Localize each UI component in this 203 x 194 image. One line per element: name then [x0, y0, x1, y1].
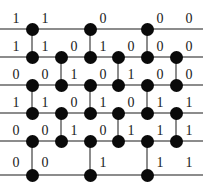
bit-label: 1 — [97, 156, 109, 170]
bit-label: 1 — [10, 12, 22, 26]
bit-label: 1 — [154, 156, 166, 170]
lattice-node — [112, 107, 125, 120]
lattice-node — [55, 107, 68, 120]
bit-label: 0 — [10, 124, 22, 138]
bit-label: 0 — [125, 96, 137, 110]
bit-label: 0 — [10, 156, 22, 170]
lattice-node — [112, 51, 125, 64]
lattice-node — [141, 79, 154, 92]
lattice-node — [170, 107, 183, 120]
bit-label: 1 — [125, 124, 137, 138]
bit-label: 0 — [39, 124, 51, 138]
bit-label: 0 — [97, 12, 109, 26]
bit-label: 1 — [183, 124, 195, 138]
lattice-node — [55, 79, 68, 92]
bit-label: 1 — [125, 68, 137, 82]
bit-label: 1 — [97, 40, 109, 54]
lattice-node — [112, 135, 125, 148]
bit-label: 0 — [10, 68, 22, 82]
bit-label: 0 — [183, 40, 195, 54]
lattice-node — [26, 169, 39, 182]
lattice-node — [141, 107, 154, 120]
bit-label: 1 — [154, 96, 166, 110]
bit-label: 0 — [68, 40, 80, 54]
bit-label: 1 — [68, 68, 80, 82]
bit-label: 1 — [10, 40, 22, 54]
bit-label: 1 — [183, 96, 195, 110]
bit-label: 0 — [183, 68, 195, 82]
bit-label: 1 — [39, 12, 51, 26]
lattice-node — [26, 79, 39, 92]
lattice-node — [84, 23, 97, 36]
lattice-node — [141, 23, 154, 36]
bit-label: 0 — [125, 40, 137, 54]
lattice-node — [26, 135, 39, 148]
lattice-node — [55, 51, 68, 64]
bit-label: 0 — [154, 68, 166, 82]
bit-label: 0 — [183, 12, 195, 26]
lattice-node — [112, 79, 125, 92]
lattice-node — [170, 135, 183, 148]
lattice-node — [26, 23, 39, 36]
lattice-node — [84, 107, 97, 120]
lattice-node — [84, 79, 97, 92]
lattice-node — [26, 107, 39, 120]
lattice-node — [170, 79, 183, 92]
bit-label: 1 — [68, 124, 80, 138]
bit-label: 0 — [39, 68, 51, 82]
bit-label: 1 — [183, 156, 195, 170]
bit-label: 0 — [97, 124, 109, 138]
bit-label: 1 — [154, 124, 166, 138]
bit-label: 1 — [10, 96, 22, 110]
lattice-node — [141, 135, 154, 148]
bit-label: 0 — [97, 68, 109, 82]
lattice-node — [141, 169, 154, 182]
bit-label: 1 — [39, 96, 51, 110]
lattice-node — [55, 135, 68, 148]
bit-label: 1 — [97, 96, 109, 110]
lattice-node — [84, 169, 97, 182]
lattice-node — [170, 51, 183, 64]
lattice-node — [84, 135, 97, 148]
lattice-node — [141, 51, 154, 64]
bit-label: 0 — [39, 156, 51, 170]
lattice-node — [84, 51, 97, 64]
bit-label: 0 — [68, 96, 80, 110]
binary-lattice-figure: 11000110100000101001101011001011100111 — [0, 0, 203, 194]
lattice-node — [26, 51, 39, 64]
bit-label: 0 — [154, 12, 166, 26]
bit-label: 0 — [154, 40, 166, 54]
bit-label: 1 — [39, 40, 51, 54]
